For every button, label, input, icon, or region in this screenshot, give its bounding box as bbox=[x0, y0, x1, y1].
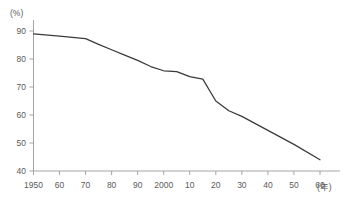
chart-container: (%) (年) 405060708090 1950607080902000102… bbox=[0, 0, 346, 197]
y-tick-label: 90 bbox=[17, 26, 27, 36]
x-tick-label: 60 bbox=[315, 180, 325, 190]
y-axis-unit-label: (%) bbox=[10, 8, 23, 18]
line-chart: (%) (年) 405060708090 1950607080902000102… bbox=[0, 0, 346, 197]
x-tick-label: 50 bbox=[289, 180, 299, 190]
y-tick-label: 60 bbox=[17, 110, 27, 120]
x-tick-label: 70 bbox=[81, 180, 91, 190]
x-tick-label: 30 bbox=[237, 180, 247, 190]
y-tick-label: 80 bbox=[17, 54, 27, 64]
x-tick-label: 10 bbox=[185, 180, 195, 190]
x-tick-label: 60 bbox=[55, 180, 65, 190]
y-tick-label: 40 bbox=[17, 166, 27, 176]
x-tick-label: 90 bbox=[133, 180, 143, 190]
y-tick-label: 70 bbox=[17, 82, 27, 92]
x-tick-label: 1950 bbox=[24, 180, 43, 190]
x-tick-label: 80 bbox=[107, 180, 117, 190]
x-tick-label: 2000 bbox=[154, 180, 173, 190]
x-tick-label: 40 bbox=[263, 180, 273, 190]
chart-background bbox=[0, 0, 346, 197]
y-tick-label: 50 bbox=[17, 138, 27, 148]
x-tick-label: 20 bbox=[211, 180, 221, 190]
